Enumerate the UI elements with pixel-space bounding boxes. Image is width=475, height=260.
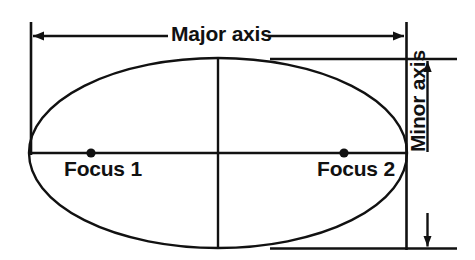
- focus-1-label: Focus 1: [64, 158, 142, 179]
- major-axis-label: Major axis: [171, 23, 272, 44]
- diagram-canvas: Major axis Focus 1 Focus 2 Minor axis: [0, 0, 475, 260]
- minor-axis-label: Minor axis: [407, 50, 428, 152]
- focus-2-label: Focus 2: [317, 158, 395, 179]
